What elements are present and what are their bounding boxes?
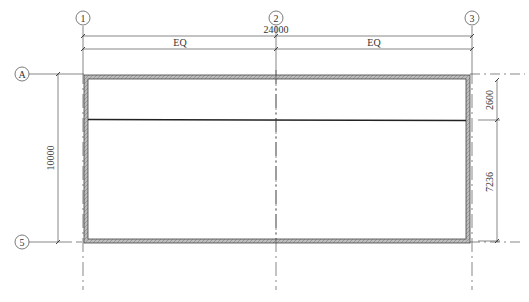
grid-bubble-3: 3: [465, 11, 479, 25]
interior-partition-line: [88, 120, 466, 121]
grid-bubble-5: 5: [15, 235, 29, 249]
grid-label-A: A: [18, 69, 26, 80]
dimension-left: [56, 72, 60, 244]
dimension-overall-width: 24000: [264, 24, 289, 35]
grid-bubble-A: A: [15, 67, 29, 81]
grid-label-1: 1: [81, 13, 86, 24]
dimension-right-upper: 2600: [484, 90, 495, 110]
grid-bubble-2: 2: [269, 11, 283, 25]
grid-lines-horizontal: [29, 74, 525, 242]
dimension-overall-height: 10000: [45, 146, 56, 171]
grid-label-3: 3: [470, 13, 475, 24]
floor-plan-drawing: 1 2 3 A 5 24000 EQ EQ 10000 2600 7236: [0, 0, 529, 302]
grid-bubble-1: 1: [76, 11, 90, 25]
grid-lines-vertical: [83, 26, 472, 290]
building-walls: [84, 75, 470, 243]
dimension-right-lower: 7236: [484, 172, 495, 192]
grid-label-2: 2: [274, 13, 279, 24]
dimension-segment-1: EQ: [173, 37, 187, 48]
dimension-segment-2: EQ: [367, 37, 381, 48]
grid-label-5: 5: [20, 237, 25, 248]
dimension-top: [81, 34, 474, 51]
